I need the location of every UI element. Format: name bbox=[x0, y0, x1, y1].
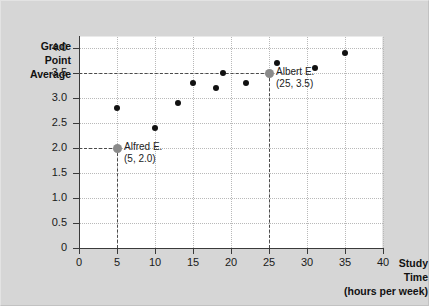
annotation-albert: Albert E.(25, 3.5) bbox=[276, 66, 314, 90]
x-tick bbox=[155, 248, 156, 254]
y-tick bbox=[73, 173, 80, 174]
x-axis-title-line: Time bbox=[296, 270, 428, 284]
y-tick-label: 3.0 bbox=[27, 92, 67, 103]
x-tick bbox=[307, 248, 308, 254]
data-point-highlighted bbox=[113, 144, 122, 153]
y-axis-title: GradePointAverage bbox=[5, 39, 71, 81]
y-tick-label: 0 bbox=[27, 242, 67, 253]
data-point-highlighted bbox=[265, 69, 274, 78]
y-tick bbox=[73, 48, 80, 49]
x-tick bbox=[193, 248, 194, 254]
x-tick bbox=[345, 248, 346, 254]
gridline-vertical bbox=[193, 37, 195, 248]
x-axis-title: StudyTime(hours per week) bbox=[296, 256, 428, 298]
x-tick-label: 5 bbox=[102, 257, 132, 268]
y-tick bbox=[73, 223, 80, 224]
x-axis-title-line: Study bbox=[296, 256, 428, 270]
x-tick bbox=[117, 248, 118, 254]
gridline-vertical bbox=[383, 37, 385, 248]
annotation-alfred: Alfred E.(5, 2.0) bbox=[124, 141, 162, 165]
y-axis-line bbox=[79, 36, 80, 249]
y-axis-title-line: Average bbox=[5, 67, 71, 81]
guide-line-alfred-vertical bbox=[117, 148, 118, 248]
y-tick bbox=[73, 198, 80, 199]
y-tick-label: 1.0 bbox=[27, 192, 67, 203]
annotation-coordinates: (25, 3.5) bbox=[276, 78, 314, 90]
gridline-vertical bbox=[345, 37, 347, 248]
y-tick bbox=[73, 123, 80, 124]
x-tick-label: 20 bbox=[216, 257, 246, 268]
scatter-chart-figure: 00.51.01.52.02.53.03.54.0 05101520253035… bbox=[0, 0, 429, 306]
x-tick bbox=[231, 248, 232, 254]
y-tick-label: 0.5 bbox=[27, 217, 67, 228]
annotation-name: Albert E. bbox=[276, 66, 314, 78]
gridline-vertical bbox=[231, 37, 233, 248]
guide-line-alfred-horizontal bbox=[79, 148, 117, 149]
guide-line-albert-vertical bbox=[269, 73, 270, 248]
x-tick-label: 10 bbox=[140, 257, 170, 268]
x-tick-label: 25 bbox=[254, 257, 284, 268]
guide-line-albert-horizontal bbox=[79, 73, 269, 74]
y-axis-title-line: Point bbox=[5, 53, 71, 67]
x-tick bbox=[79, 248, 80, 254]
y-axis-title-line: Grade bbox=[5, 39, 71, 53]
x-tick-label: 15 bbox=[178, 257, 208, 268]
x-tick-label: 0 bbox=[64, 257, 94, 268]
x-tick bbox=[383, 248, 384, 254]
y-tick bbox=[73, 98, 80, 99]
y-tick-label: 2.0 bbox=[27, 142, 67, 153]
x-axis-title-line: (hours per week) bbox=[296, 284, 428, 298]
y-tick-label: 1.5 bbox=[27, 167, 67, 178]
annotation-name: Alfred E. bbox=[124, 141, 162, 153]
x-tick bbox=[269, 248, 270, 254]
y-tick-label: 2.5 bbox=[27, 117, 67, 128]
annotation-coordinates: (5, 2.0) bbox=[124, 153, 162, 165]
